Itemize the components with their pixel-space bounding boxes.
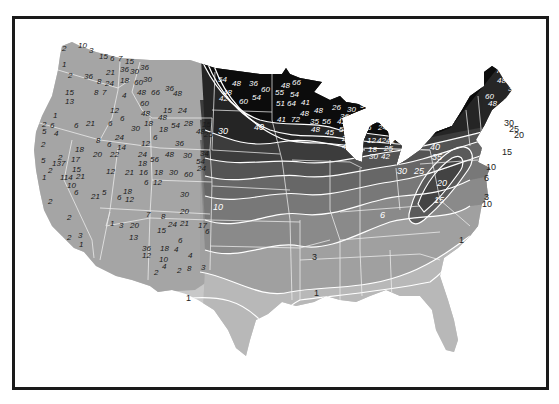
map-value-label: 8 [187,264,192,273]
map-value-label: 15 [434,195,445,205]
map-value-label: 2 [176,266,182,275]
map-value-label: 54 [171,121,180,130]
map-value-label: 56 [322,117,331,126]
map-value-label: 24 [137,150,147,159]
map-value-label: 4 [188,251,193,260]
map-value-label: 20 [92,150,102,159]
map-value-label: 6 [178,236,183,245]
map-value-label: 10 [486,162,496,172]
map-value-label: 6 [107,140,112,149]
map-value-label: 25 [203,130,213,139]
map-value-label: 1 [62,60,66,69]
map-value-label: 16 [139,168,148,177]
map-value-label: 10 [78,41,87,50]
map-value-label: 55 [275,88,284,97]
map-value-label: 40 [430,142,440,152]
map-value-label: 60 [239,97,248,106]
map-value-label: 8 [161,212,166,221]
map-value-label: 6 [117,193,122,202]
us-contour-map: 2103156715363036123621824186030151387448… [0,0,559,404]
map-value-label: 6 [120,114,125,123]
map-value-label: 6 [144,178,149,187]
map-value-label: 21 [124,168,134,177]
map-value-label: 42 [381,152,390,161]
map-value-label: 2 [67,71,73,80]
map-value-label: 41 [301,98,310,107]
map-value-label: 26 [331,103,341,112]
map-value-label: 1 [314,288,319,298]
map-value-label: 36 [84,72,93,81]
map-value-label: 41 [277,115,286,124]
map-value-label: 1 [459,235,464,245]
map-value-label: 3 [119,221,124,230]
map-value-label: 6 [74,188,79,197]
map-value-label: 60 [261,85,270,94]
map-value-label: 18 [159,125,168,134]
map-value-label: 40 [254,122,264,132]
map-value-label: 17 [71,155,80,164]
map-value-label: 30 [183,151,192,160]
map-value-label: 4 [174,245,179,254]
map-value-label: 5 [42,127,47,136]
map-value-label: 40 [228,59,238,69]
map-value-label: 8 [96,136,101,145]
map-value-label: 9 [360,101,365,110]
map-value-label: 18 [138,159,147,168]
map-value-label: 3 [78,231,83,240]
map-value-label: 30 [199,53,209,63]
map-value-label: 48 [137,88,146,97]
map-value-label: 24 [167,220,177,229]
map-value-label: 12 [367,136,376,145]
map-value-label: 20 [129,221,139,230]
map-value-label: 2 [40,140,46,149]
map-value-label: 15 [502,147,512,157]
map-value-label: 30 [180,190,189,199]
map-value-label: 25 [413,166,425,176]
map-value-label: 30 [131,124,140,133]
map-value-label: 4 [122,91,127,100]
map-value-label: 6 [74,121,79,130]
map-value-label: 5 [41,156,46,165]
map-value-label: 12 [142,251,151,260]
map-value-label: 7 [146,210,151,219]
map-value-label: 24 [104,79,114,88]
map-value-label: 20 [436,178,447,188]
map-value-label: 1 [79,240,83,249]
map-value-label: 36 [249,79,258,88]
map-value-label: 30 [218,126,228,136]
map-value-label: 5 [102,188,107,197]
map-value-label: 12 [141,139,150,148]
map-value-label: 35 [432,152,443,162]
map-value-label: 48 [165,150,174,159]
map-value-label: 21 [179,219,189,228]
map-value-label: 60 [184,170,193,179]
map-value-label: 8 [97,77,102,86]
map-value-label: 21 [85,119,95,128]
map-value-label: 36 [175,139,184,148]
map-value-label: 54 [339,125,348,134]
map-value-label: 66 [292,78,301,87]
map-value-label: 6 [108,119,113,128]
map-value-label: 15 [157,226,166,235]
map-value-label: 48 [141,109,150,118]
map-value-label: 45 [325,128,334,137]
map-value-label: 1 [110,219,114,228]
map-value-label: 24 [177,106,187,115]
map-value-label: 6 [484,173,489,183]
map-value-label: 28 [183,119,193,128]
map-value-label: 56 [150,155,159,164]
map-value-label: 2 [153,268,159,277]
map-value-label: 2 [47,166,53,175]
map-value-label: 72 [496,66,505,75]
map-value-label: 10 [482,199,492,209]
map-value-label: 22 [109,150,119,159]
map-value-label: 12 [106,167,115,176]
map-value-label: 64 [287,99,296,108]
map-value-label: 20 [179,207,189,216]
map-value-label: 30 [169,168,178,177]
map-value-label: 6 [367,123,372,132]
map-value-label: 48 [158,113,167,122]
map-value-label: 3 [201,263,206,272]
map-value-label: 54 [290,90,299,99]
map-value-label: 24 [377,123,387,132]
